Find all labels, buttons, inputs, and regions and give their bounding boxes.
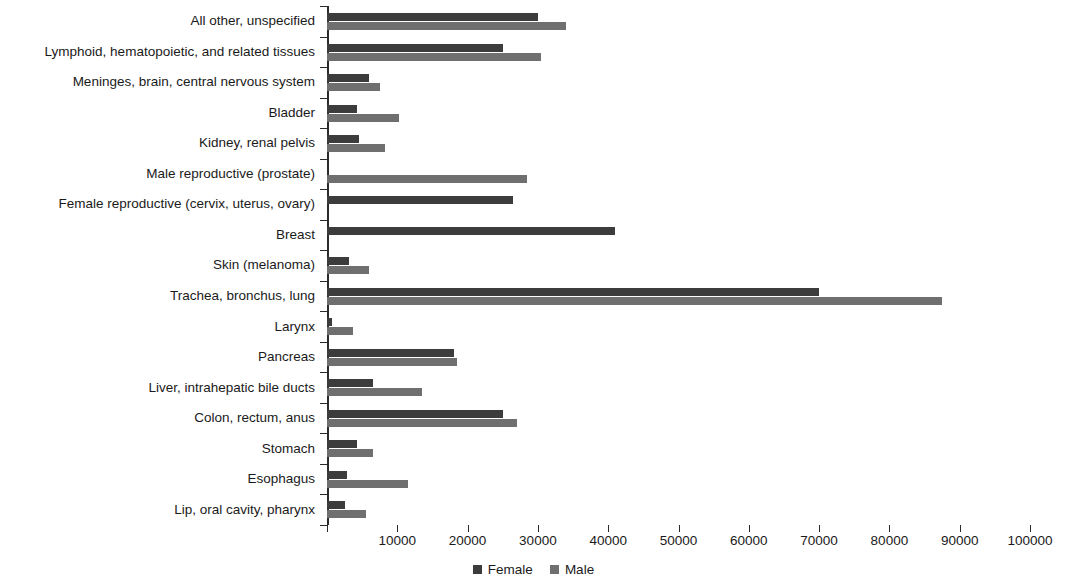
- x-axis-tick: [1030, 525, 1031, 532]
- bar-male: [327, 388, 422, 396]
- bar-female: [327, 318, 332, 326]
- x-axis-tick: [468, 525, 469, 532]
- bar-female: [327, 196, 513, 204]
- legend-swatch-icon: [473, 565, 482, 574]
- y-axis-tick: [320, 220, 327, 221]
- bar-female: [327, 471, 347, 479]
- x-axis-tick: [679, 525, 680, 532]
- bar-female: [327, 44, 503, 52]
- chart-category-row: Trachea, bronchus, lung: [327, 281, 1030, 312]
- bar-male: [327, 175, 527, 183]
- x-axis-tick: [749, 525, 750, 532]
- x-axis-ticks: [327, 525, 1030, 533]
- category-label: Lymphoid, hematopoietic, and related tis…: [0, 44, 315, 59]
- category-label: All other, unspecified: [0, 13, 315, 28]
- bar-female: [327, 288, 819, 296]
- bar-male: [327, 480, 408, 488]
- y-axis-tick: [320, 37, 327, 38]
- y-axis-tick: [320, 464, 327, 465]
- bar-male: [327, 449, 373, 457]
- y-axis-tick: [320, 311, 327, 312]
- chart-category-row: Lip, oral cavity, pharynx: [327, 494, 1030, 525]
- bar-male: [327, 327, 353, 335]
- y-axis-tick: [320, 98, 327, 99]
- category-label: Kidney, renal pelvis: [0, 135, 315, 150]
- chart-category-row: All other, unspecified: [327, 6, 1030, 37]
- category-label: Pancreas: [0, 349, 315, 364]
- chart-legend: FemaleMale: [0, 562, 1067, 577]
- chart-category-row: Lymphoid, hematopoietic, and related tis…: [327, 37, 1030, 68]
- category-label: Colon, rectum, anus: [0, 410, 315, 425]
- x-axis-tick: [960, 525, 961, 532]
- bar-male: [327, 83, 380, 91]
- plot-area: All other, unspecifiedLymphoid, hematopo…: [327, 6, 1030, 525]
- bar-male: [327, 266, 369, 274]
- bar-male: [327, 144, 385, 152]
- y-axis-tick: [320, 525, 327, 526]
- bar-male: [327, 22, 566, 30]
- bar-female: [327, 257, 349, 265]
- chart-category-row: Breast: [327, 220, 1030, 251]
- x-axis-tick: [397, 525, 398, 532]
- y-axis-tick: [320, 281, 327, 282]
- category-label: Female reproductive (cervix, uterus, ova…: [0, 196, 315, 211]
- y-axis-tick: [320, 67, 327, 68]
- legend-item: Male: [550, 562, 594, 577]
- y-axis-tick: [320, 189, 327, 190]
- bar-female: [327, 227, 615, 235]
- legend-label: Male: [565, 562, 594, 577]
- bar-male: [327, 297, 942, 305]
- legend-swatch-icon: [550, 565, 559, 574]
- bar-male: [327, 358, 457, 366]
- bar-female: [327, 13, 538, 21]
- y-axis-tick: [320, 6, 327, 7]
- category-label: Esophagus: [0, 471, 315, 486]
- bar-female: [327, 105, 357, 113]
- chart-category-row: Liver, intrahepatic bile ducts: [327, 372, 1030, 403]
- chart-category-row: Bladder: [327, 98, 1030, 129]
- bar-female: [327, 379, 373, 387]
- chart-category-row: Colon, rectum, anus: [327, 403, 1030, 434]
- bar-male: [327, 510, 366, 518]
- bar-female: [327, 74, 369, 82]
- category-label: Stomach: [0, 441, 315, 456]
- chart-category-row: Stomach: [327, 433, 1030, 464]
- category-label: Breast: [0, 227, 315, 242]
- y-axis-tick: [320, 494, 327, 495]
- bar-female: [327, 135, 359, 143]
- bar-female: [327, 349, 454, 357]
- x-axis-tick: [889, 525, 890, 532]
- y-axis-tick: [320, 159, 327, 160]
- bar-chart: All other, unspecifiedLymphoid, hematopo…: [0, 0, 1067, 582]
- chart-category-row: Skin (melanoma): [327, 250, 1030, 281]
- chart-category-row: Female reproductive (cervix, uterus, ova…: [327, 189, 1030, 220]
- legend-item: Female: [473, 562, 533, 577]
- y-axis-tick: [320, 250, 327, 251]
- y-axis-tick: [320, 128, 327, 129]
- y-axis-tick: [320, 403, 327, 404]
- x-axis-tick-label: 100000: [970, 533, 1067, 548]
- category-label: Meninges, brain, central nervous system: [0, 74, 315, 89]
- legend-label: Female: [488, 562, 533, 577]
- x-axis-tick: [327, 525, 328, 532]
- y-axis-tick: [320, 372, 327, 373]
- category-label: Trachea, bronchus, lung: [0, 288, 315, 303]
- category-label: Larynx: [0, 319, 315, 334]
- bar-female: [327, 501, 345, 509]
- bar-male: [327, 419, 517, 427]
- chart-category-row: Meninges, brain, central nervous system: [327, 67, 1030, 98]
- bar-male: [327, 53, 541, 61]
- category-label: Skin (melanoma): [0, 257, 315, 272]
- chart-category-row: Larynx: [327, 311, 1030, 342]
- category-label: Liver, intrahepatic bile ducts: [0, 380, 315, 395]
- bar-female: [327, 410, 503, 418]
- bar-female: [327, 440, 357, 448]
- category-label: Male reproductive (prostate): [0, 166, 315, 181]
- y-axis-tick: [320, 433, 327, 434]
- x-axis-tick: [538, 525, 539, 532]
- x-axis-tick: [608, 525, 609, 532]
- chart-category-row: Pancreas: [327, 342, 1030, 373]
- chart-category-row: Esophagus: [327, 464, 1030, 495]
- bar-male: [327, 114, 399, 122]
- category-label: Lip, oral cavity, pharynx: [0, 502, 315, 517]
